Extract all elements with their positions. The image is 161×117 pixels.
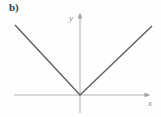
y-axis-label: y [68, 13, 73, 23]
x-axis-arrow-icon [145, 93, 151, 97]
figure-panel: b) y x [0, 0, 161, 117]
x-axis-label: x [147, 98, 152, 108]
y-axis-arrow-icon [78, 13, 83, 19]
absolute-value-curve [15, 25, 152, 95]
coordinate-plot: y x [0, 0, 161, 117]
